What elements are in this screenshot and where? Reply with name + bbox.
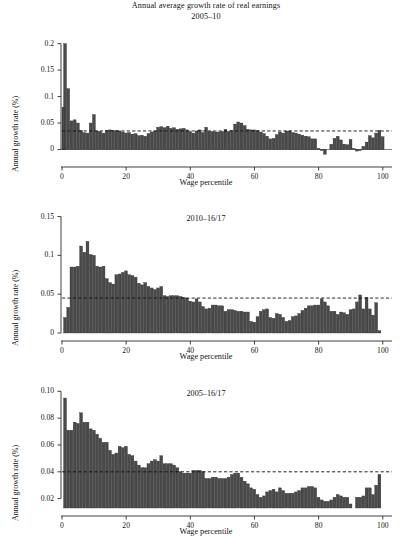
panel-1-xtick-4: 80 bbox=[305, 346, 333, 355]
panel-0-xtick-0: 0 bbox=[48, 172, 76, 181]
figure-title-line2: 2005–10 bbox=[0, 11, 412, 22]
panel-0-ytick-0: 0 bbox=[0, 144, 54, 153]
panel-0-xtick-5: 100 bbox=[369, 172, 397, 181]
panel-2-ytick-1: 0.04 bbox=[0, 467, 54, 476]
panel-1-ytick-0: 0 bbox=[0, 328, 54, 337]
panel-1-xtick-1: 20 bbox=[112, 346, 140, 355]
panel-2-xtick-2: 40 bbox=[176, 521, 204, 530]
panel-2-ytick-2: 0.06 bbox=[0, 440, 54, 449]
panel-0-xtick-2: 40 bbox=[176, 172, 204, 181]
panel-2-xtick-0: 0 bbox=[48, 521, 76, 530]
panel-2-xtick-5: 100 bbox=[369, 521, 397, 530]
panel-1-ytick-1: 0.05 bbox=[0, 289, 54, 298]
panel-2-ylabel: Annual growth rate (%) bbox=[11, 445, 20, 521]
panel-1-xtick-3: 60 bbox=[240, 346, 268, 355]
panel-2005-10: Annual growth rate (%) Wage percentile 0… bbox=[0, 26, 412, 191]
panel-2-xtick-4: 80 bbox=[305, 521, 333, 530]
panel-2-ytick-3: 0.08 bbox=[0, 413, 54, 422]
panel-0-ytick-1: 0.05 bbox=[0, 118, 54, 127]
panel-1-xtick-5: 100 bbox=[369, 346, 397, 355]
panel-1-ytick-3: 0.15 bbox=[0, 212, 54, 221]
panel-1-ytick-2: 0.1 bbox=[0, 250, 54, 259]
panel-0-xtick-4: 80 bbox=[305, 172, 333, 181]
panel-0-xtick-1: 20 bbox=[112, 172, 140, 181]
panel-2-xtick-3: 60 bbox=[240, 521, 268, 530]
figure-title: Annual average growth rate of real earni… bbox=[0, 0, 412, 22]
panel-2-plot-area bbox=[62, 390, 386, 508]
panel-2-xtick-1: 20 bbox=[112, 521, 140, 530]
figure-title-line1: Annual average growth rate of real earni… bbox=[0, 0, 412, 11]
panel-0-ytick-4: 0.2 bbox=[0, 39, 54, 48]
panel-0-xtick-3: 60 bbox=[240, 172, 268, 181]
panel-1-plot-area bbox=[62, 215, 386, 333]
panel-0-plot-area bbox=[62, 41, 386, 159]
panel-2-ytick-0: 0.02 bbox=[0, 494, 54, 503]
panel-1-xtick-0: 0 bbox=[48, 346, 76, 355]
panel-2005-1617: 2005–16/17 Annual growth rate (%) Wage p… bbox=[0, 375, 412, 545]
panel-2-ytick-4: 0.10 bbox=[0, 386, 54, 395]
panel-0-ylabel: Annual growth rate (%) bbox=[11, 96, 20, 172]
panel-1-xtick-2: 40 bbox=[176, 346, 204, 355]
panel-0-ytick-2: 0.1 bbox=[0, 92, 54, 101]
figure-annual-growth-rate: Annual average growth rate of real earni… bbox=[0, 0, 412, 545]
panel-0-ytick-3: 0.15 bbox=[0, 65, 54, 74]
panel-2010-1617: 2010–16/17 Annual growth rate (%) Wage p… bbox=[0, 200, 412, 370]
